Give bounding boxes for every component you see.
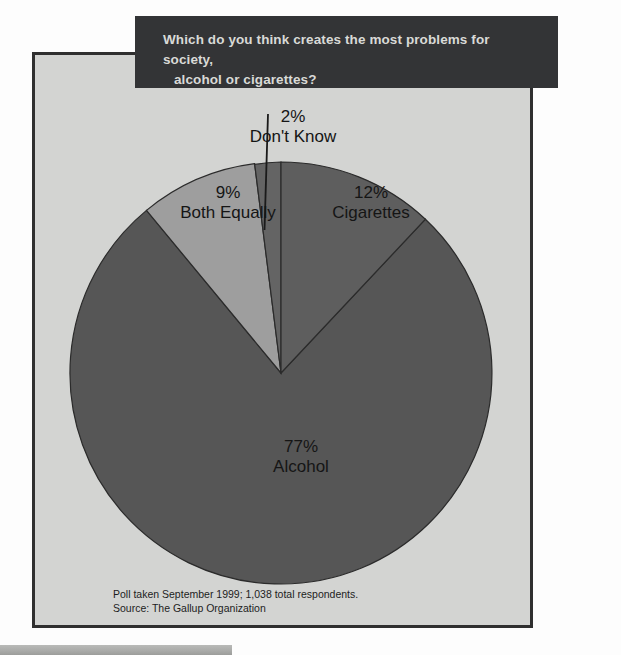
pie-label-alcohol: 77% Alcohol	[231, 437, 371, 477]
chart-question-title: Which do you think creates the most prob…	[163, 30, 533, 90]
pie-label-alcohol-percent: 77%	[231, 437, 371, 457]
pie-label-dont-know: 2% Don't Know	[213, 107, 373, 147]
pie-label-both-equally-percent: 9%	[153, 183, 303, 203]
pie-label-cigarettes-name: Cigarettes	[301, 203, 441, 223]
chart-question-line1: Which do you think creates the most prob…	[163, 32, 490, 67]
pie-label-dont-know-percent: 2%	[213, 107, 373, 127]
chart-panel: 2% Don't Know 9% Both Equally 12% Cigare…	[32, 52, 533, 628]
title-bar: Which do you think creates the most prob…	[135, 16, 558, 88]
footnote-source-line: Source: The Gallup Organization	[113, 601, 358, 615]
pie-label-dont-know-name: Don't Know	[213, 127, 373, 147]
bottom-decorative-bar	[0, 645, 232, 655]
chart-footnote: Poll taken September 1999; 1,038 total r…	[113, 587, 358, 615]
page-background: 2% Don't Know 9% Both Equally 12% Cigare…	[0, 0, 621, 655]
pie-label-both-equally: 9% Both Equally	[153, 183, 303, 223]
pie-label-alcohol-name: Alcohol	[231, 457, 371, 477]
chart-panel-inner: 2% Don't Know 9% Both Equally 12% Cigare…	[35, 55, 530, 625]
pie-label-cigarettes: 12% Cigarettes	[301, 183, 441, 223]
pie-label-cigarettes-percent: 12%	[301, 183, 441, 203]
chart-question-line2: alcohol or cigarettes?	[163, 70, 533, 90]
footnote-poll-line: Poll taken September 1999; 1,038 total r…	[113, 587, 358, 601]
pie-label-both-equally-name: Both Equally	[153, 203, 303, 223]
